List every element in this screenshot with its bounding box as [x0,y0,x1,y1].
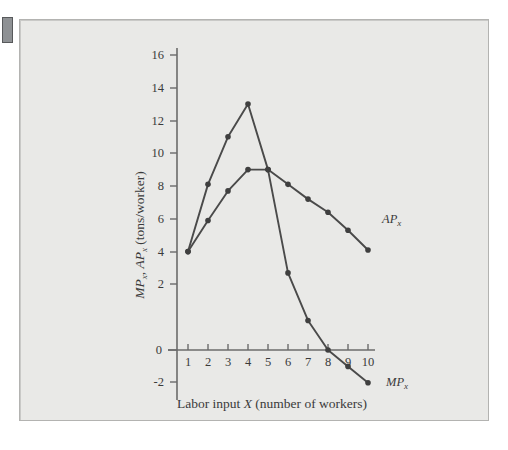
data-point [365,380,371,386]
x-tick-label-5: 5 [265,355,271,369]
data-point [305,196,311,202]
mp-curve-line [188,104,368,383]
data-point [285,182,291,188]
x-tick-label-1: 1 [185,355,191,369]
data-point [225,188,231,194]
x-tick-label-3: 3 [225,355,231,369]
y-tick-label-2: 2 [158,277,164,291]
x-axis-ticks [188,344,368,350]
x-tick-label-4: 4 [245,355,252,369]
data-point [245,101,251,107]
data-point [245,167,251,173]
y-tick-label-0: 0 [156,343,162,357]
x-axis-title: Labor input X (number of workers) [177,396,367,411]
series-ap [185,167,371,255]
x-tick-label-6: 6 [285,355,291,369]
ap-curve-line [188,170,368,252]
ap-data-points [185,167,371,255]
data-point [325,347,331,353]
series-mp [185,101,371,385]
data-point [305,318,311,324]
data-point [185,249,191,255]
ap-curve-label: APx [381,212,401,228]
page-edge-marker [2,17,13,43]
figure-panel: 16 14 12 10 8 6 4 2 0 -2 [19,19,489,421]
y-tick-label-10: 10 [152,146,165,160]
y-tick-label-16: 16 [152,48,165,62]
data-point [365,247,371,253]
figure-page: 16 14 12 10 8 6 4 2 0 -2 [0,0,508,450]
y-tick-label-4: 4 [158,245,165,259]
data-point [205,218,211,224]
x-tick-label-10: 10 [362,355,375,369]
x-tick-label-7: 7 [305,355,311,369]
y-axis-ticks [168,55,177,382]
y-tick-label-8: 8 [158,179,164,193]
data-point [325,209,331,215]
data-point [205,182,211,188]
y-tick-label-14: 14 [152,81,165,95]
data-point [345,227,351,233]
y-tick-label-neg2: -2 [154,375,164,389]
mp-curve-label: MPx [385,375,408,391]
x-tick-label-2: 2 [205,355,211,369]
y-axis-title: MPx, APx (tons/worker) [132,171,149,300]
axes-group [168,48,375,400]
mp-data-points [185,101,371,385]
chart-canvas: 16 14 12 10 8 6 4 2 0 -2 [20,20,490,422]
y-tick-label-12: 12 [152,114,165,128]
data-point [225,134,231,140]
data-point [285,270,291,276]
y-tick-labels: 16 14 12 10 8 6 4 2 0 -2 [152,48,165,389]
data-point [265,167,271,173]
x-tick-label-8: 8 [325,355,331,369]
y-tick-label-6: 6 [158,212,164,226]
data-point [345,364,351,370]
